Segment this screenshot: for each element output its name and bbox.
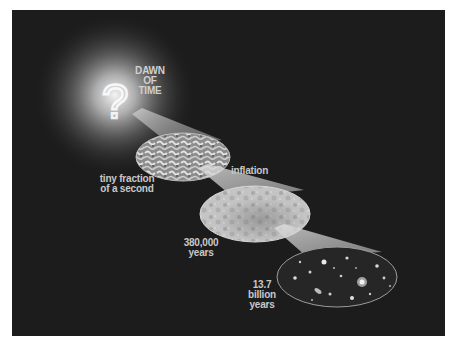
tiny-fraction-label: tiny fraction of a second <box>90 174 164 194</box>
billion-line-3: years <box>242 300 282 310</box>
galaxy-ellipse <box>277 247 397 307</box>
380000-years-label: 380,000 years <box>178 238 224 258</box>
question-mark-icon: ? <box>102 75 129 128</box>
dawn-of-time-label: DAWN OF TIME <box>130 66 170 96</box>
dawn-line-3: TIME <box>130 86 170 96</box>
tiny-fraction-line-2: of a second <box>90 184 164 194</box>
13-7-billion-years-label: 13.7 billion years <box>242 280 282 310</box>
inflation-text: inflation <box>231 166 281 176</box>
diagram-panel: ? DAWN OF TIME tiny fraction of a second… <box>12 10 445 336</box>
380000-line-2: years <box>178 248 224 258</box>
inflation-label: inflation <box>231 166 281 176</box>
diagram-graphics: ? <box>12 10 445 336</box>
